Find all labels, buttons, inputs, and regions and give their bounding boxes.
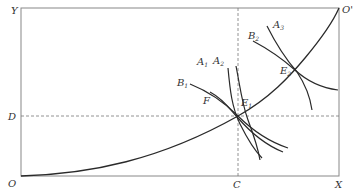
x-axis-label: X — [334, 179, 343, 190]
box-frame — [21, 8, 339, 176]
c-label: C — [233, 179, 241, 190]
contract-curve — [21, 8, 339, 176]
origin-prime-label: O' — [342, 4, 353, 15]
indifference-curve-a3 — [267, 26, 312, 110]
curve-a2-label: A2 — [212, 55, 224, 67]
edgeworth-box-diagram: Y O' O X C D F E1 E2 A1 A2 A3 B1 B2 — [0, 0, 357, 196]
curve-b2-label: B2 — [247, 30, 259, 42]
y-axis-label: Y — [11, 5, 19, 16]
origin-label: O — [8, 178, 16, 189]
curve-a3-label: A3 — [272, 19, 284, 31]
point-f-label: F — [202, 95, 211, 106]
indifference-curve-a2 — [236, 66, 260, 160]
indifference-curve-b2 — [253, 41, 338, 90]
d-label: D — [7, 111, 16, 122]
point-e1-label: E1 — [240, 97, 252, 109]
curve-b1-label: B1 — [176, 77, 188, 89]
curve-a1-label: A1 — [196, 56, 208, 68]
point-e2-label: E2 — [279, 65, 291, 77]
